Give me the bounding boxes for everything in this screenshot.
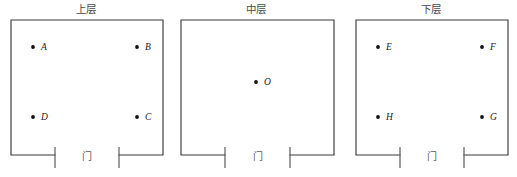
floor-panel-upper: 上层ABDC门 — [0, 0, 172, 177]
room-wall-middle — [181, 20, 334, 155]
vertex-label-e: E — [386, 42, 392, 52]
floor-panel-lower: 下层EFHG门 — [345, 0, 517, 177]
door-label-middle: 门 — [253, 151, 263, 163]
vertex-label-d: D — [41, 112, 48, 122]
vertex-dot-e — [376, 45, 380, 49]
vertex-dot-f — [480, 45, 484, 49]
vertex-label-b: B — [145, 42, 151, 52]
floor-panel-middle: 中层O门 — [170, 0, 342, 177]
room-wall-upper — [11, 20, 163, 155]
vertex-dot-o — [254, 80, 258, 84]
vertex-label-g: G — [490, 112, 497, 122]
vertex-dot-g — [480, 115, 484, 119]
vertex-label-a: A — [41, 42, 47, 52]
vertex-label-f: F — [490, 42, 496, 52]
vertex-dot-b — [135, 45, 139, 49]
vertex-dot-d — [31, 115, 35, 119]
door-label-upper: 门 — [82, 151, 92, 163]
vertex-label-o: O — [264, 77, 271, 87]
room-wall-lower — [356, 20, 508, 155]
vertex-dot-h — [376, 115, 380, 119]
floor-plan-figure: 上层ABDC门中层O门下层EFHG门 — [0, 0, 517, 177]
vertex-dot-c — [135, 115, 139, 119]
vertex-label-h: H — [386, 112, 393, 122]
door-label-lower: 门 — [427, 151, 437, 163]
vertex-label-c: C — [145, 112, 151, 122]
vertex-dot-a — [31, 45, 35, 49]
